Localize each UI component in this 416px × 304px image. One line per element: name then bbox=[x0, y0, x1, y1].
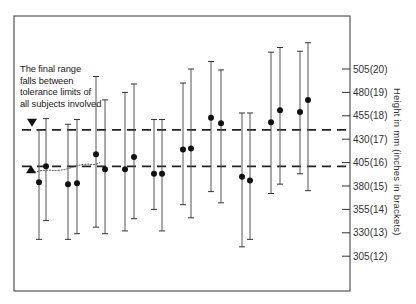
data-point bbox=[93, 151, 99, 157]
data-point bbox=[268, 119, 274, 125]
annotation-text: The final range falls between tolerance … bbox=[20, 63, 101, 109]
y-tick-label: 405(16) bbox=[353, 157, 387, 168]
data-point bbox=[131, 154, 137, 160]
y-tick-label: 330(13) bbox=[353, 227, 387, 238]
y-tick-label: 480(19) bbox=[353, 87, 387, 98]
data-point bbox=[208, 115, 214, 121]
data-point bbox=[277, 107, 283, 113]
data-point bbox=[247, 177, 253, 183]
y-tick-label: 430(17) bbox=[353, 134, 387, 145]
data-point bbox=[159, 171, 165, 177]
data-point bbox=[305, 97, 311, 103]
y-axis-label: Height in mm (inches in brackets) bbox=[392, 88, 403, 236]
data-point bbox=[239, 174, 245, 180]
y-tick-label: 505(20) bbox=[353, 64, 387, 75]
range-chart: 505(20)480(19)455(18)430(17)405(16)380(1… bbox=[0, 0, 416, 304]
data-point bbox=[43, 163, 49, 169]
y-tick-label: 455(18) bbox=[353, 110, 387, 121]
data-point bbox=[180, 146, 186, 152]
data-point bbox=[218, 120, 224, 126]
data-point bbox=[188, 146, 194, 152]
data-point bbox=[297, 109, 303, 115]
data-point bbox=[36, 179, 42, 185]
y-tick-label: 355(14) bbox=[353, 204, 387, 215]
y-tick-label: 305(12) bbox=[353, 251, 387, 262]
down-triangle-icon bbox=[27, 119, 37, 127]
data-point bbox=[74, 180, 80, 186]
data-point bbox=[65, 181, 71, 187]
data-point bbox=[151, 171, 157, 177]
y-tick-label: 380(15) bbox=[353, 181, 387, 192]
data-point bbox=[102, 166, 108, 172]
data-point bbox=[122, 166, 128, 172]
